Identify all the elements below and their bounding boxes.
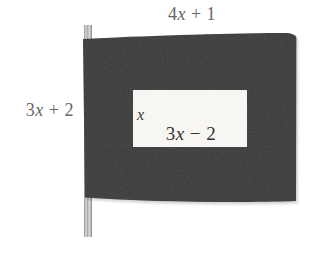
label-inner-height-var: x (137, 106, 144, 123)
flag-figure: 4x + 1 3x + 2 x 3x − 2 (0, 0, 309, 253)
label-flag-width-coef: 4 (168, 4, 178, 24)
label-inner-width-coef: 3 (166, 123, 176, 144)
label-inner-width-rest: − 2 (185, 123, 217, 144)
label-flag-width-rest: + 1 (186, 4, 216, 24)
label-flag-height-rest: + 2 (44, 100, 74, 120)
label-flag-height: 3x + 2 (14, 100, 74, 122)
label-inner-width: 3x − 2 (156, 123, 226, 146)
label-flag-height-var: x (35, 100, 44, 120)
label-flag-width-var: x (177, 4, 186, 24)
label-flag-height-coef: 3 (26, 100, 36, 120)
label-flag-width: 4x + 1 (158, 4, 226, 26)
label-inner-width-var: x (176, 123, 185, 144)
label-inner-height: x (137, 105, 144, 124)
flag-illustration (0, 0, 309, 253)
